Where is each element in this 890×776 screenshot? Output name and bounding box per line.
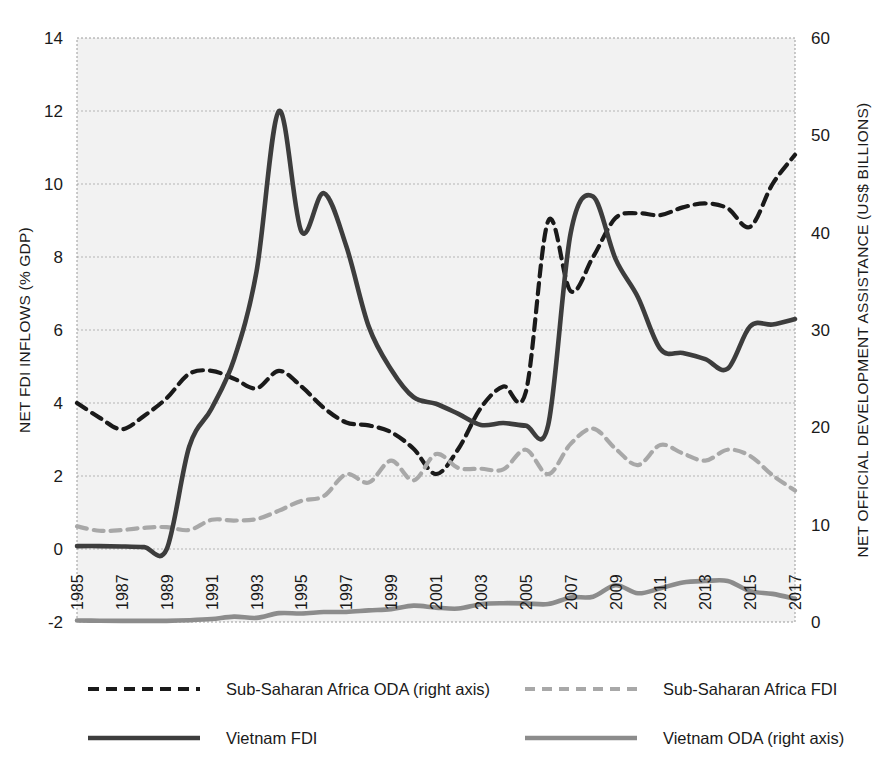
y2tick-label-2: 40: [811, 224, 830, 243]
xtick-label-16: 2017: [787, 574, 804, 610]
xtick-label-10: 2005: [518, 574, 535, 610]
ytick-label-6: 2: [54, 467, 63, 486]
xtick-label-12: 2009: [608, 574, 625, 610]
xtick-label-11: 2007: [563, 574, 580, 610]
xtick-label-6: 1997: [338, 574, 355, 610]
y2tick-label-0: 60: [811, 29, 830, 48]
xtick-label-0: 1985: [69, 574, 86, 610]
y2tick-label-3: 30: [811, 321, 830, 340]
ytick-label-1: 12: [44, 102, 63, 121]
ytick-label-3: 8: [54, 248, 63, 267]
xtick-label-5: 1995: [293, 574, 310, 610]
xtick-label-4: 1993: [249, 574, 266, 610]
xtick-label-13: 2011: [652, 575, 669, 610]
xtick-label-8: 2001: [428, 574, 445, 610]
xtick-label-7: 1999: [383, 574, 400, 610]
xtick-label-15: 2015: [742, 574, 759, 610]
ytick-label-7: 0: [54, 540, 63, 559]
xtick-label-14: 2013: [697, 574, 714, 610]
xtick-label-3: 1991: [204, 574, 221, 610]
xtick-label-2: 1989: [159, 574, 176, 610]
plot-background: [77, 38, 795, 622]
right-axis-title: NET OFFICIAL DEVELOPMENT ASSISTANCE (US$…: [854, 103, 871, 558]
legend-label-1: Sub-Saharan Africa FDI: [663, 680, 837, 698]
dual-axis-line-chart: 14121086420-2 6050403020100 198519871989…: [0, 0, 890, 776]
legend-label-3: Vietnam ODA (right axis): [663, 729, 844, 747]
legend-label-2: Vietnam FDI: [226, 729, 317, 747]
ytick-label-0: 14: [44, 29, 63, 48]
ytick-label-2: 10: [44, 175, 63, 194]
y2tick-label-4: 20: [811, 418, 830, 437]
xtick-label-9: 2003: [473, 574, 490, 610]
ytick-label-8: -2: [48, 613, 63, 632]
left-axis-title: NET FDI INFLOWS (% GDP): [16, 227, 33, 433]
y2tick-label-1: 50: [811, 126, 830, 145]
xtick-label-1: 1987: [114, 574, 131, 610]
y2tick-label-5: 10: [811, 516, 830, 535]
ytick-label-5: 4: [54, 394, 63, 413]
ytick-label-4: 6: [54, 321, 63, 340]
y2tick-label-6: 0: [811, 613, 820, 632]
legend-label-0: Sub-Saharan Africa ODA (right axis): [226, 680, 490, 698]
chart-figure: 14121086420-2 6050403020100 198519871989…: [0, 0, 890, 776]
